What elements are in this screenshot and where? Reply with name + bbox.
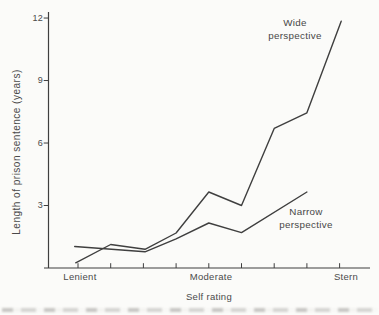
y-tick-label-6: 6 (13, 138, 43, 148)
plot-area (0, 0, 379, 315)
x-tick-label-moderate: Moderate (190, 271, 233, 282)
scan-artifact (2, 308, 378, 312)
y-tick-label-3: 3 (13, 200, 43, 210)
prison-sentence-line-chart: Length of prison sentence (years) 12 9 6… (0, 0, 379, 315)
series-label-narrow-perspective: Narrow perspective (274, 206, 338, 231)
narrow-perspective-line (75, 192, 307, 252)
x-tick-label-lenient: Lenient (63, 271, 96, 282)
y-tick-label-12: 12 (13, 13, 43, 23)
series-label-wide-perspective: Wide perspective (263, 17, 327, 42)
y-tick-label-9: 9 (13, 75, 43, 85)
x-tick-label-stern: Stern (334, 271, 358, 282)
x-axis-title: Self rating (186, 291, 232, 302)
